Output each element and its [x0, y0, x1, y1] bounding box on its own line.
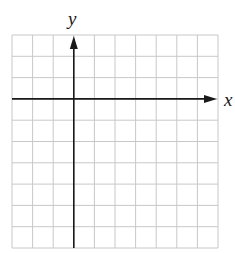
y-axis-arrow-icon — [70, 36, 78, 49]
grid-lines — [12, 35, 218, 248]
x-axis-label: x — [223, 89, 233, 110]
coordinate-plane: x y — [0, 0, 235, 253]
y-axis-label: y — [66, 8, 77, 29]
x-axis-arrow-icon — [204, 95, 217, 103]
